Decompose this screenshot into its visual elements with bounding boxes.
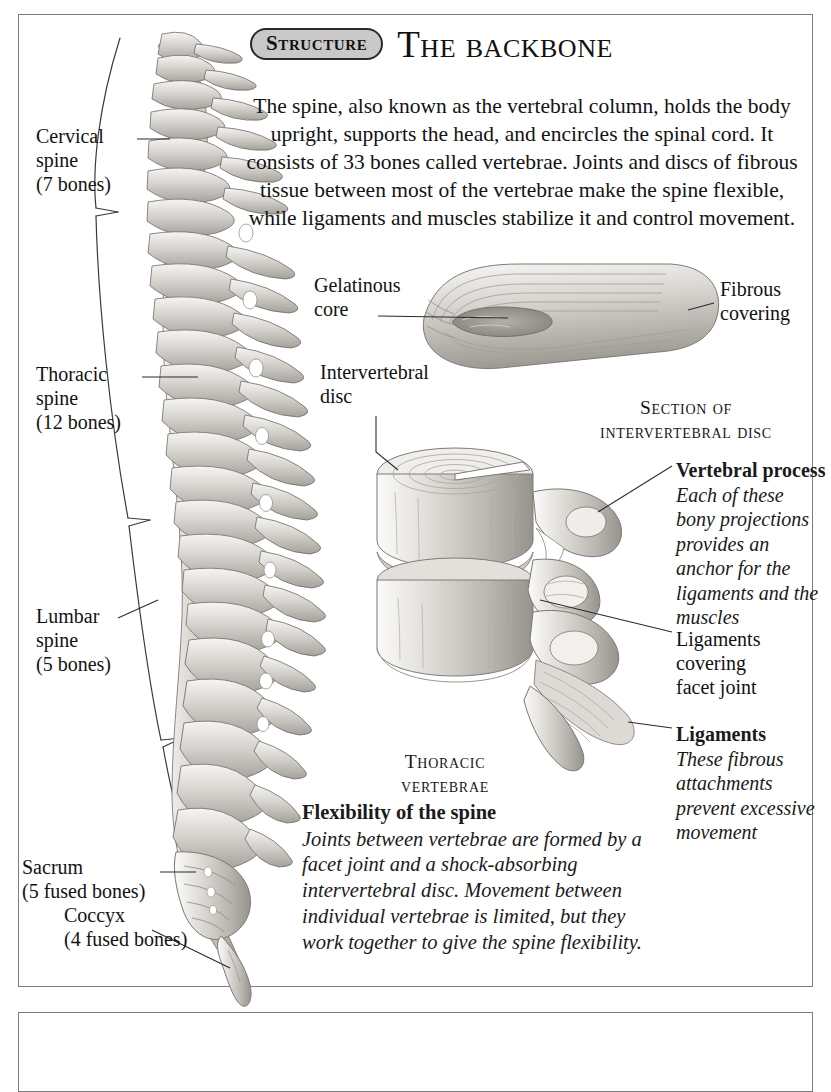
label-thoracic-line1: Thoracic (36, 362, 121, 386)
caption-thoracic-vertebrae: Thoracic vertebrae (340, 750, 550, 799)
caption-thoracic-line1: Thoracic (340, 750, 550, 774)
label-gelatinous-core-line2: core (314, 297, 401, 321)
caption-section-of-intervertebral-disc: Section of intervertebral disc (566, 396, 806, 445)
label-cervical-spine: Cervical spine (7 bones) (36, 124, 111, 196)
label-lumbar-line2: spine (36, 628, 111, 652)
label-lumbar-line1: Lumbar (36, 604, 111, 628)
label-thoracic-spine: Thoracic spine (12 bones) (36, 362, 121, 434)
annotation-ligaments-covering-facet-joint: Ligaments covering facet joint (676, 627, 826, 699)
annotation-ligaments-fibrous-title: Ligaments (676, 722, 826, 747)
structure-badge: Structure (250, 28, 383, 59)
label-coccyx-line2: (4 fused bones) (64, 927, 187, 951)
label-sacrum-line1: Sacrum (22, 855, 145, 879)
bottom-content-panel (18, 1012, 813, 1092)
label-lumbar-line3: (5 bones) (36, 652, 111, 676)
label-thoracic-line2: spine (36, 386, 121, 410)
label-intervertebral-disc-line1: Intervertebral (320, 360, 429, 384)
caption-thoracic-line2: vertebrae (340, 774, 550, 798)
label-cervical-line3: (7 bones) (36, 172, 111, 196)
intro-paragraph: The spine, also known as the vertebral c… (238, 92, 806, 233)
label-intervertebral-disc: Intervertebral disc (320, 360, 429, 408)
annotation-vertebral-process-body: Each of these bony projections provides … (676, 483, 826, 629)
page-header: Structure The backbone (250, 22, 795, 66)
label-fibrous-covering-line1: Fibrous (720, 277, 790, 301)
annotation-ligaments-fibrous: Ligaments These fibrous attachments prev… (676, 722, 826, 845)
label-cervical-line2: spine (36, 148, 111, 172)
annotation-ligaments-fibrous-body: These fibrous attachments prevent excess… (676, 747, 826, 845)
label-ligaments-facet-line3: facet joint (676, 675, 826, 699)
label-lumbar-spine: Lumbar spine (5 bones) (36, 604, 111, 676)
flexibility-body: Joints between vertebrae are formed by a… (302, 827, 647, 956)
label-fibrous-covering-line2: covering (720, 301, 790, 325)
label-ligaments-facet-line1: Ligaments (676, 627, 826, 651)
flexibility-section: Flexibility of the spine Joints between … (302, 800, 647, 956)
annotation-vertebral-process: Vertebral process Each of these bony pro… (676, 458, 826, 629)
page-title: The backbone (397, 26, 613, 63)
annotation-vertebral-process-title: Vertebral process (676, 458, 826, 483)
label-fibrous-covering: Fibrous covering (720, 277, 790, 325)
flexibility-title: Flexibility of the spine (302, 800, 647, 826)
label-sacrum-line2: (5 fused bones) (22, 879, 145, 903)
label-coccyx: Coccyx (4 fused bones) (64, 903, 187, 951)
label-cervical-line1: Cervical (36, 124, 111, 148)
label-ligaments-facet-line2: covering (676, 651, 826, 675)
label-gelatinous-core: Gelatinous core (314, 273, 401, 321)
label-coccyx-line1: Coccyx (64, 903, 187, 927)
label-gelatinous-core-line1: Gelatinous (314, 273, 401, 297)
label-intervertebral-disc-line2: disc (320, 384, 429, 408)
caption-disc-line1: Section of (566, 396, 806, 420)
caption-disc-line2: intervertebral disc (566, 420, 806, 444)
label-sacrum: Sacrum (5 fused bones) (22, 855, 145, 903)
label-thoracic-line3: (12 bones) (36, 410, 121, 434)
